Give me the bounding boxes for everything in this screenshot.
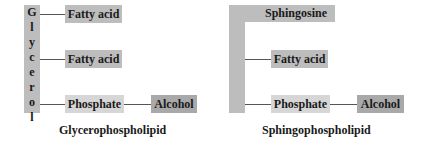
glycerol-letter: y bbox=[29, 35, 35, 50]
glycerol-letter: o bbox=[29, 95, 35, 110]
sphingosine-backbone-label: Sphingosine bbox=[229, 5, 335, 22]
connector-line bbox=[245, 59, 271, 60]
connector-line bbox=[40, 14, 65, 15]
connector-line bbox=[245, 104, 271, 105]
glycerol-letter: l bbox=[30, 20, 33, 35]
alcohol-box: Alcohol bbox=[151, 95, 197, 113]
glycerol-letter: l bbox=[30, 110, 33, 125]
connector-line bbox=[40, 104, 65, 105]
connector-line bbox=[330, 104, 357, 105]
phosphate-box: Phosphate bbox=[271, 95, 330, 113]
connector-line bbox=[124, 104, 151, 105]
fatty-acid-box: Fatty acid bbox=[271, 50, 328, 68]
fatty-acid-box-1: Fatty acid bbox=[65, 5, 122, 23]
phosphate-box: Phosphate bbox=[65, 95, 124, 113]
glycerol-letter: G bbox=[27, 5, 36, 20]
fatty-acid-box-2: Fatty acid bbox=[65, 50, 122, 68]
glycerol-letter: e bbox=[29, 65, 34, 80]
sphingophospholipid-caption: Sphingophospholipid bbox=[262, 123, 371, 138]
glycerol-label: G l y c e r o l bbox=[24, 5, 40, 113]
glycerol-letter: c bbox=[29, 50, 34, 65]
glycerol-letter: r bbox=[29, 80, 34, 95]
connector-line bbox=[40, 59, 65, 60]
alcohol-box: Alcohol bbox=[357, 95, 404, 113]
glycerophospholipid-caption: Glycerophospholipid bbox=[59, 123, 166, 138]
